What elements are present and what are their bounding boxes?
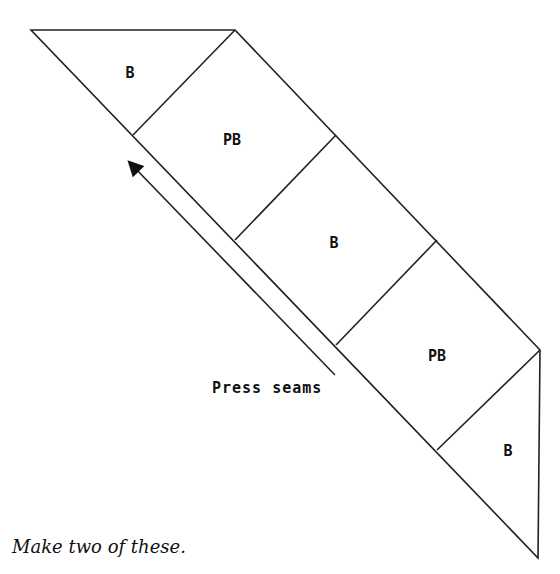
piece-label-2: PB: [223, 131, 241, 149]
instruction-caption: Make two of these.: [12, 536, 186, 557]
strip-outline: [31, 30, 540, 558]
quilt-strip-diagram: B PB B PB B Press seams: [0, 0, 560, 574]
piece-label-4: PB: [428, 347, 446, 365]
piece-label-1: B: [125, 64, 134, 82]
press-seams-label: Press seams: [212, 379, 322, 397]
piece-label-5: B: [503, 442, 512, 460]
piece-label-3: B: [329, 234, 338, 252]
